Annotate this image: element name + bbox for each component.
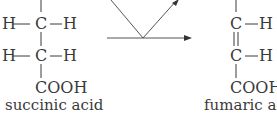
atom-h: H: [2, 48, 16, 64]
reaction-arrowhead-icon: [184, 35, 192, 41]
cooh-group: COOH: [230, 80, 277, 96]
coupled-arrow-out: [143, 1, 176, 38]
coupled-arrow-in: [111, 0, 143, 38]
atom-h: H: [259, 16, 273, 32]
atom-c: C: [35, 48, 47, 64]
atom-c: C: [230, 48, 242, 64]
atom-h: H: [63, 16, 77, 32]
cooh-group: COOH: [35, 80, 87, 96]
atom-h: H: [259, 48, 273, 64]
fumaric-acid-label: fumaric acid: [204, 98, 277, 113]
atom-h: H: [2, 16, 16, 32]
atom-c: C: [230, 16, 242, 32]
atom-c: C: [35, 16, 47, 32]
atom-h: H: [63, 48, 77, 64]
succinic-acid-label: succinic acid: [5, 98, 103, 113]
